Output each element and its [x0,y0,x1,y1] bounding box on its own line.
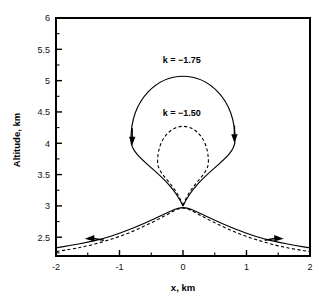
y-axis-title: Altitude, km [11,113,22,167]
x-tick-label: 0 [180,262,185,272]
y-tick-label: 5.5 [37,45,50,55]
x-tick-label: 2 [307,262,312,272]
y-tick-label: 4.5 [37,107,50,117]
y-tick-label: 2.5 [37,233,50,243]
y-tick-label: 3.5 [37,170,50,180]
x-tick-label: 1 [244,262,249,272]
y-tick-label: 4 [45,139,50,149]
y-tick-label: 3 [45,201,50,211]
curve-label-1: k = −1.50 [163,108,201,118]
chart-figure: 2.533.544.555.56 -2-1012 k = −1.75k = −1… [0,0,334,305]
altitude-vs-x-chart: 2.533.544.555.56 -2-1012 k = −1.75k = −1… [0,0,334,305]
x-axis-title: x, km [171,282,195,293]
curve-label-0: k = −1.75 [163,55,201,65]
y-tick-label: 6 [45,13,50,23]
x-tick-label: -1 [115,262,123,272]
y-tick-label: 5 [45,76,50,86]
chart-background [0,0,334,305]
x-tick-label: -2 [52,262,60,272]
